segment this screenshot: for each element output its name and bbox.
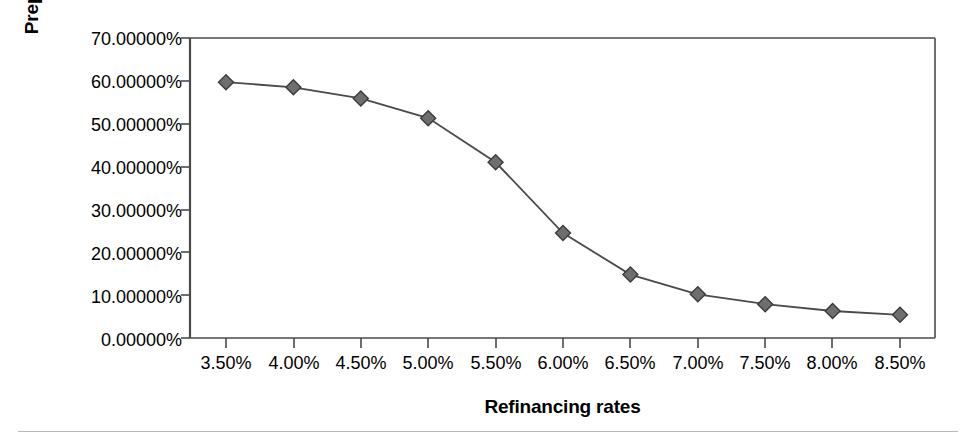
data-point-marker xyxy=(758,297,773,312)
prepayment-vs-refinancing-line-chart: Prepayment rates 70.00000% 60.00000% 50.… xyxy=(0,0,973,438)
data-series-line xyxy=(226,82,900,315)
data-point-marker xyxy=(690,287,705,302)
bottom-separator-rule xyxy=(18,431,958,432)
data-point-marker xyxy=(825,304,840,319)
axis-frame xyxy=(190,38,935,338)
data-point-marker xyxy=(219,75,234,90)
data-series-markers xyxy=(219,75,908,323)
x-tick-label: 4.50% xyxy=(324,352,398,374)
x-tick-label: 6.00% xyxy=(526,352,600,374)
data-point-marker xyxy=(893,307,908,322)
x-tick-label: 3.50% xyxy=(189,352,263,374)
x-tick-label: 5.50% xyxy=(459,352,533,374)
data-point-marker xyxy=(421,111,436,126)
x-tick-label: 8.50% xyxy=(863,352,937,374)
y-axis-ticks xyxy=(181,38,190,338)
data-point-marker xyxy=(286,80,301,95)
x-tick-label: 5.00% xyxy=(391,352,465,374)
x-tick-label: 7.50% xyxy=(728,352,802,374)
x-axis-title: Refinancing rates xyxy=(190,396,935,418)
x-axis-ticks xyxy=(226,338,900,348)
data-point-marker xyxy=(623,267,638,282)
x-axis-tick-labels: 3.50% 4.00% 4.50% 5.00% 5.50% 6.00% 6.50… xyxy=(190,352,935,378)
x-tick-label: 6.50% xyxy=(593,352,667,374)
x-tick-label: 4.00% xyxy=(257,352,331,374)
data-point-marker xyxy=(353,91,368,106)
x-tick-label: 8.00% xyxy=(795,352,869,374)
x-tick-label: 7.00% xyxy=(661,352,735,374)
